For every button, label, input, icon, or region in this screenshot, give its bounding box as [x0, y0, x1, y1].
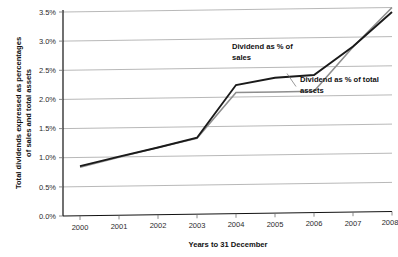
line-chart: 3.5% 3.0% 2.5% 2.0% 1.5% 1.0% 0.5% 0.0% …	[0, 0, 398, 257]
y-tick-label-3.5: 3.5%	[39, 8, 56, 17]
gridline-3.5	[63, 8, 392, 13]
x-tick-label-2004: 2004	[228, 220, 245, 229]
x-tick-label-2008: 2008	[382, 218, 398, 227]
y-tick-label-2.0: 2.0%	[39, 95, 56, 104]
x-axis-line	[63, 212, 392, 217]
x-tick-label-2003: 2003	[189, 221, 206, 230]
gridline-0.5	[63, 182, 392, 187]
x-tick-label-2006: 2006	[306, 219, 323, 228]
y-tick-label-0.5: 0.5%	[39, 183, 56, 192]
gridline-1.0	[63, 153, 392, 158]
chart-container: 3.5% 3.0% 2.5% 2.0% 1.5% 1.0% 0.5% 0.0% …	[0, 0, 398, 257]
annotations: Dividend as % of sales Dividend as % of …	[232, 42, 379, 95]
assets-annotation-line1: Dividend as % of total	[300, 75, 379, 84]
series-line-dividend-sales	[80, 12, 392, 166]
x-tick-label-2005: 2005	[267, 220, 284, 229]
sales-annotation-line1: Dividend as % of	[232, 42, 293, 51]
data-series	[80, 8, 392, 168]
x-tick-label-2002: 2002	[150, 221, 167, 230]
y-tick-label-1.0: 1.0%	[39, 153, 56, 162]
assets-annotation-line2: assets	[300, 86, 324, 95]
x-tick-label-2007: 2007	[345, 219, 362, 228]
x-axis: 2000 2001 2002 2003 2004 2005 2006 2007 …	[63, 212, 398, 232]
x-tick-label-2001: 2001	[111, 222, 128, 231]
y-axis-title-line2: of sales and total assets	[24, 69, 33, 157]
x-axis-title: Years to 31 December	[189, 240, 268, 249]
x-tick-label-2000: 2000	[72, 223, 89, 232]
y-tick-label-3.0: 3.0%	[39, 37, 56, 46]
sales-annotation-line2: sales	[232, 53, 251, 62]
gridline-2.5	[63, 66, 392, 71]
series-line-dividend-total-assets	[80, 8, 392, 168]
y-tick-label-2.5: 2.5%	[39, 66, 56, 75]
gridline-1.5	[63, 124, 392, 129]
y-tick-label-0.0: 0.0%	[39, 212, 56, 221]
y-axis: 3.5% 3.0% 2.5% 2.0% 1.5% 1.0% 0.5% 0.0%	[39, 8, 63, 221]
y-tick-label-1.5: 1.5%	[39, 124, 56, 133]
y-axis-title-line1: Total dividends expressed as percentages	[14, 37, 23, 189]
gridline-3.0	[63, 37, 392, 42]
